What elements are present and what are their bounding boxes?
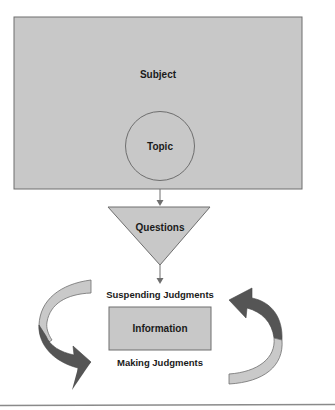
arrow-down-icon xyxy=(157,189,164,206)
cycle-arrow-right-icon xyxy=(229,288,282,384)
information-label: Information xyxy=(133,323,188,334)
bottom-rule xyxy=(0,405,335,406)
topic-label: Topic xyxy=(147,141,173,152)
cycle-arrow-left-icon xyxy=(39,280,91,390)
making-judgments-label: Making Judgments xyxy=(117,357,203,368)
questions-label: Questions xyxy=(136,222,185,233)
inquiry-diagram: Subject Topic Questions Suspending Judgm… xyxy=(0,0,335,410)
questions-triangle xyxy=(108,207,210,265)
suspending-judgments-label: Suspending Judgments xyxy=(106,289,214,300)
subject-label: Subject xyxy=(140,69,177,80)
arrow-down-icon xyxy=(157,265,164,284)
